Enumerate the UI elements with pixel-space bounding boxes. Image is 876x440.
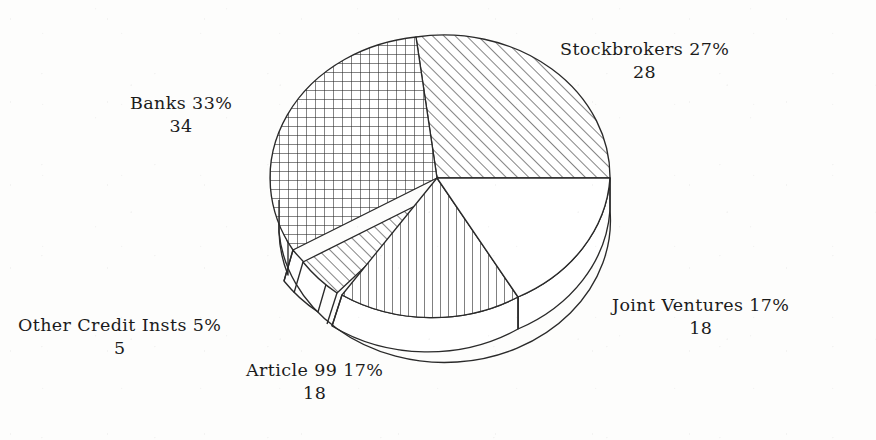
label-other-credit-insts-value: 5: [18, 337, 221, 360]
label-other-credit-insts: Other Credit Insts 5% 5: [18, 314, 221, 360]
pie-chart-figure: [0, 0, 876, 440]
label-banks-value: 34: [130, 115, 232, 138]
label-joint-ventures-value: 18: [612, 317, 789, 340]
label-article-99: Article 99 17% 18: [246, 359, 383, 405]
label-stockbrokers-title: Stockbrokers 27%: [560, 38, 729, 61]
pie-chart-page: Stockbrokers 27% 28 Banks 33% 34 Other C…: [0, 0, 876, 440]
label-stockbrokers-value: 28: [560, 61, 729, 84]
label-article-99-title: Article 99 17%: [246, 359, 383, 382]
label-banks-title: Banks 33%: [130, 92, 232, 115]
label-stockbrokers: Stockbrokers 27% 28: [560, 38, 729, 84]
label-article-99-value: 18: [246, 382, 383, 405]
label-joint-ventures: Joint Ventures 17% 18: [612, 294, 789, 340]
label-other-credit-insts-title: Other Credit Insts 5%: [18, 314, 221, 337]
label-banks: Banks 33% 34: [130, 92, 232, 138]
label-joint-ventures-title: Joint Ventures 17%: [612, 294, 789, 317]
